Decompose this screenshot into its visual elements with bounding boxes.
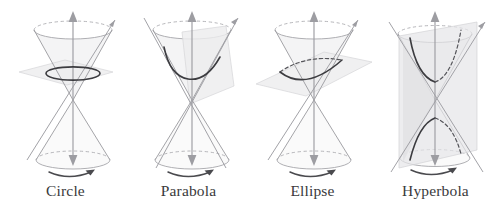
panel-label-ellipse: Ellipse xyxy=(250,181,375,201)
generating-line-arrowhead xyxy=(478,22,485,29)
rotation-arrowhead xyxy=(86,170,96,176)
ellipse-diagram xyxy=(250,0,375,182)
rotation-arrow xyxy=(411,170,453,175)
rotation-arrowhead xyxy=(327,170,337,176)
panel-circle: Circle xyxy=(3,0,128,208)
generating-line-arrowhead xyxy=(231,18,238,25)
circle-diagram xyxy=(3,0,128,182)
panel-label-parabola: Parabola xyxy=(126,181,251,201)
panel-label-circle: Circle xyxy=(3,181,128,201)
panel-label-hyperbola: Hyperbola xyxy=(373,181,498,201)
generating-line-arrowhead xyxy=(109,20,115,27)
rotation-arrowhead xyxy=(448,168,458,174)
rotation-arrow xyxy=(49,172,91,177)
rotation-arrow xyxy=(290,172,332,177)
conic-sections-figure: Circle xyxy=(0,0,498,208)
hyperbola-diagram xyxy=(373,0,498,182)
axis-arrowhead-top xyxy=(69,11,78,22)
rotation-arrow xyxy=(168,172,210,177)
generating-line-arrowhead xyxy=(352,20,358,27)
axis-arrowhead-top xyxy=(431,11,440,22)
rotation-arrowhead xyxy=(205,170,215,176)
panel-parabola: Parabola xyxy=(126,0,251,208)
axis-arrowhead-top xyxy=(310,11,319,22)
panel-ellipse: Ellipse xyxy=(250,0,375,208)
panel-hyperbola: Hyperbola xyxy=(373,0,498,208)
axis-arrowhead-top xyxy=(188,11,197,22)
parabola-diagram xyxy=(126,0,251,182)
